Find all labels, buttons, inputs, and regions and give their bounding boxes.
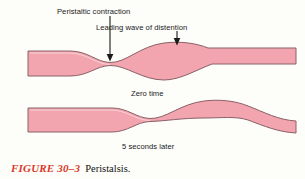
label-peristaltic-contraction: Peristaltic contraction xyxy=(57,8,130,16)
figure-number: FIGURE 30–3 xyxy=(11,162,80,174)
zero-time-tube-body xyxy=(28,42,296,80)
figure-container: Peristaltic contraction Leading wave of … xyxy=(0,0,305,179)
zero-time-tube xyxy=(28,42,296,80)
figure-caption: FIGURE 30–3Peristalsis. xyxy=(11,159,130,175)
figure-title: Peristalsis. xyxy=(85,163,130,174)
label-leading-wave-of-distention: Leading wave of distention xyxy=(96,24,187,32)
five-seconds-later-tube xyxy=(28,100,296,133)
label-zero-time: Zero time xyxy=(131,90,164,98)
label-five-seconds-later: 5 seconds later xyxy=(122,143,174,151)
five-seconds-later-tube-body xyxy=(28,100,296,133)
